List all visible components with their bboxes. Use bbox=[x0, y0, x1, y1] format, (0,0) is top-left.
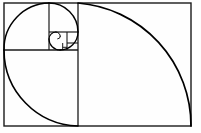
fibonacci-spiral-svg bbox=[0, 0, 201, 133]
fibonacci-spiral-figure bbox=[0, 0, 201, 133]
canvas-background bbox=[0, 0, 201, 133]
